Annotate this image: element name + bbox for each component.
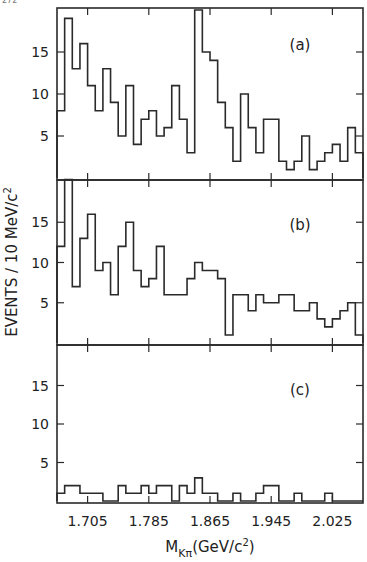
panel-label: (c) [290, 381, 310, 399]
panel-a: 51015(a) [31, 8, 363, 180]
y-axis-label: EVENTS / 10 MeV/c2 [2, 187, 21, 337]
panel-label: (b) [289, 216, 310, 234]
y-tick-label: 10 [31, 255, 49, 271]
x-tick-label: 1.705 [68, 513, 108, 529]
panel-frame [57, 345, 363, 503]
page-number: 272 [2, 0, 17, 5]
panel-b: 51015(b) [31, 180, 363, 345]
histogram-figure: 272 51015(a)51015(b)51015(c)1.7051.7851.… [0, 0, 367, 562]
y-tick-label: 15 [31, 214, 49, 230]
y-tick-label: 5 [40, 128, 49, 144]
y-tick-label: 10 [31, 416, 49, 432]
panel-c: 51015(c) [31, 345, 363, 503]
x-axis-label: MKπ(GeV/c2) [165, 537, 254, 560]
y-tick-label: 5 [40, 455, 49, 471]
y-tick-label: 5 [40, 295, 49, 311]
x-tick-label: 2.025 [312, 513, 352, 529]
y-tick-label: 15 [31, 44, 49, 60]
y-tick-label: 10 [31, 86, 49, 102]
x-tick-label: 1.865 [190, 513, 230, 529]
panel-label: (a) [290, 36, 311, 54]
histogram-plot: 51015(a)51015(b)51015(c)1.7051.7851.8651… [0, 0, 367, 562]
x-tick-label: 1.945 [251, 513, 291, 529]
histogram-steps [57, 180, 363, 343]
histogram-steps [57, 10, 363, 178]
x-tick-label: 1.785 [129, 513, 169, 529]
y-tick-label: 15 [31, 378, 49, 394]
